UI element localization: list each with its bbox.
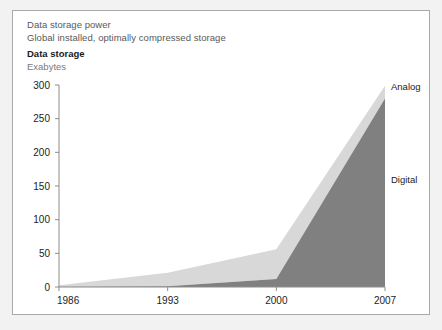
area-series-digital (59, 98, 385, 287)
x-axis-tick-label: 2000 (265, 295, 288, 306)
x-axis-tick-label: 2007 (374, 295, 397, 306)
y-axis-tick-label: 0 (44, 282, 50, 293)
series-layer (59, 86, 385, 287)
figure-root: Data storage power Global installed, opt… (0, 0, 442, 330)
x-axis-tick-label: 1986 (57, 295, 80, 306)
series-labels-layer: AnalogDigital (391, 81, 421, 184)
series-label-digital: Digital (391, 174, 417, 185)
y-axis-tick-label: 100 (33, 214, 50, 225)
y-axis-tick-label: 150 (33, 181, 50, 192)
plot-area: 050100150200250300 1986199320002007 Anal… (13, 11, 430, 315)
series-label-analog: Analog (391, 81, 421, 92)
y-axis-tick-label: 300 (33, 80, 50, 91)
y-ticks-layer: 050100150200250300 (33, 80, 59, 293)
area-chart-svg: 050100150200250300 1986199320002007 Anal… (13, 11, 430, 315)
x-axis-tick-label: 1993 (157, 295, 180, 306)
y-axis-tick-label: 50 (39, 248, 51, 259)
y-axis-tick-label: 250 (33, 113, 50, 124)
x-ticks-layer: 1986199320002007 (57, 287, 397, 306)
y-axis-tick-label: 200 (33, 147, 50, 158)
chart-card: Data storage power Global installed, opt… (12, 10, 430, 315)
